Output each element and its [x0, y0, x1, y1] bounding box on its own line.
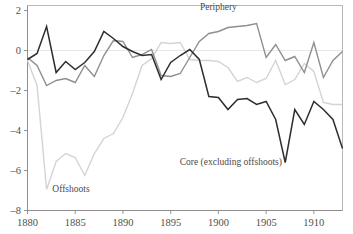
series-line-periphery [28, 24, 343, 86]
x-axis [28, 211, 343, 215]
series-label-core: Core (excluding offshoots) [180, 157, 282, 168]
y-tick-label-–6: –6 [10, 165, 22, 176]
series-label-periphery: Periphery [200, 2, 237, 12]
x-tick-label-1910: 1910 [303, 217, 324, 228]
plot-border [28, 6, 343, 211]
series-line-core-excluding-offshoots [28, 27, 343, 163]
chart-container: 20–2–4–6–8 1880188518901895190019051910 … [0, 0, 353, 234]
series-label-offshoots: Offshoots [52, 184, 90, 194]
plot-frame [28, 6, 343, 211]
y-tick-labels: 20–2–4–6–8 [10, 5, 22, 216]
y-tick-label-–4: –4 [10, 125, 22, 136]
series-annotations: PeripheryOffshootsCore (excluding offsho… [52, 2, 282, 194]
x-tick-label-1900: 1900 [208, 217, 229, 228]
x-tick-label-1880: 1880 [17, 217, 38, 228]
x-tick-label-1890: 1890 [112, 217, 133, 228]
x-tick-label-1895: 1895 [160, 217, 181, 228]
x-tick-labels: 1880188518901895190019051910 [17, 217, 324, 228]
y-axis [24, 6, 28, 211]
x-tick-label-1905: 1905 [256, 217, 277, 228]
y-tick-label-–8: –8 [10, 205, 22, 216]
y-tick-label-2: 2 [16, 5, 21, 16]
line-chart-svg: 20–2–4–6–8 1880188518901895190019051910 … [0, 0, 353, 234]
x-tick-label-1885: 1885 [65, 217, 86, 228]
y-tick-label-–2: –2 [10, 85, 22, 96]
y-tick-label-0: 0 [16, 45, 21, 56]
